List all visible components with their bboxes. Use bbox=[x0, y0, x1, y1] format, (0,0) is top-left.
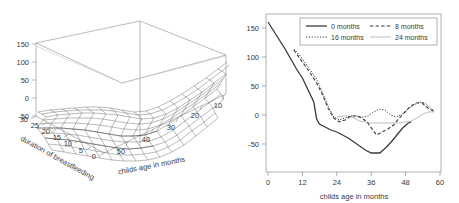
y-tick-label: 150 bbox=[246, 24, 259, 33]
y-tick-label: 100 bbox=[246, 53, 259, 62]
y-tick-label: 20 bbox=[42, 127, 50, 136]
x-tick-label: 36 bbox=[367, 178, 375, 187]
legend-label-16-months: 16 months bbox=[331, 34, 364, 41]
x-tick-label: 24 bbox=[333, 178, 341, 187]
x-tick-label: 60 bbox=[436, 178, 444, 187]
legend-label-8-months: 8 months bbox=[395, 23, 424, 30]
line-plot-svg: 150 100 50 0 -50 0 12 24 36 48 60 childs… bbox=[230, 0, 459, 203]
x-tick-label: 40 bbox=[142, 135, 150, 144]
series-line-24-months bbox=[337, 112, 434, 123]
x-tick-label: 10 bbox=[214, 101, 222, 110]
x-axis-ticks bbox=[268, 172, 440, 176]
legend-label-24-months: 24 months bbox=[395, 34, 428, 41]
x-tick-label: 20 bbox=[191, 111, 199, 120]
x-tick-label: 12 bbox=[298, 178, 306, 187]
series-line-8-months bbox=[294, 50, 434, 135]
y-tick-label: 5 bbox=[79, 146, 83, 155]
z-axis-ticks bbox=[32, 44, 36, 116]
z-tick-label: 50 bbox=[21, 76, 29, 85]
x-axis-title: childs age in months bbox=[320, 192, 389, 201]
x-tick-label: 30 bbox=[167, 123, 175, 132]
z-tick-label: 0 bbox=[25, 94, 29, 103]
legend-label-0-months: 0 months bbox=[331, 23, 360, 30]
y-tick-label: 25 bbox=[31, 121, 39, 130]
y-tick-label: 10 bbox=[64, 139, 72, 148]
surface-plot-svg: 150 100 50 0 -50 bbox=[0, 0, 230, 203]
x-tick-label: 50 bbox=[117, 147, 125, 156]
y-axis-ticks bbox=[262, 28, 266, 144]
figure-container: 150 100 50 0 -50 bbox=[0, 0, 459, 203]
x-tick-label: 48 bbox=[401, 178, 409, 187]
y-tick-label: 50 bbox=[251, 82, 259, 91]
z-tick-label: 100 bbox=[16, 58, 29, 67]
y-tick-label: 30 bbox=[20, 115, 28, 124]
x-axis-title: childs age in months bbox=[117, 155, 186, 177]
x-tick-label: 0 bbox=[266, 178, 270, 187]
y-tick-label: 0 bbox=[255, 111, 259, 120]
surface-plot-panel: 150 100 50 0 -50 bbox=[0, 0, 230, 203]
line-plot-panel: 150 100 50 0 -50 0 12 24 36 48 60 childs… bbox=[230, 0, 459, 203]
z-tick-label: 150 bbox=[16, 40, 29, 49]
y-tick-label: 15 bbox=[53, 133, 61, 142]
y-tick-label: -50 bbox=[248, 140, 259, 149]
legend: 0 months 8 months 16 months 24 months bbox=[300, 18, 437, 45]
box-interior-diagonal bbox=[36, 46, 226, 83]
y-tick-label: 0 bbox=[92, 152, 96, 161]
